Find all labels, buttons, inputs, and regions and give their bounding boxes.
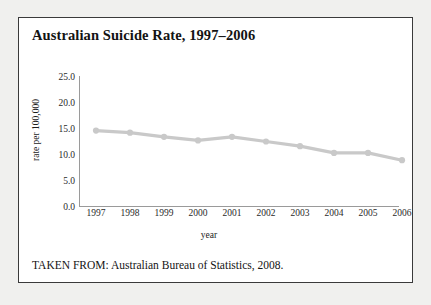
x-tick-label: 2005 [359,208,378,218]
data-point-marker [229,134,235,140]
data-point-marker [93,127,99,133]
x-tick-label: 2001 [223,208,242,218]
data-point-marker [331,150,337,156]
x-tick-label: 1997 [87,208,106,218]
data-point-marker [161,134,167,140]
x-tick-label: 2004 [325,208,344,218]
x-tick-label: 2006 [393,208,412,218]
x-tick-label: 2003 [291,208,310,218]
data-point-marker [263,138,269,144]
plot-region: rate per 100,000 0.0 5.0 10.0 15.0 20.0 … [19,18,414,242]
x-tick-label: 1998 [121,208,140,218]
data-point-marker [365,150,371,156]
data-point-marker [127,130,133,136]
x-axis-label: year [19,230,399,240]
x-tick-label: 2000 [189,208,208,218]
data-point-marker [297,143,303,149]
data-point-marker [195,137,201,143]
line-series-path [96,131,402,161]
figure-container: Australian Suicide Rate, 1997–2006 rate … [18,17,413,283]
source-caption: TAKEN FROM: Australian Bureau of Statist… [32,259,283,271]
data-point-marker [399,157,405,163]
x-tick-label: 1999 [155,208,174,218]
x-tick-label: 2002 [257,208,276,218]
x-axis-tick-labels: 1997 1998 1999 2000 2001 2002 2003 2004 … [19,208,414,228]
